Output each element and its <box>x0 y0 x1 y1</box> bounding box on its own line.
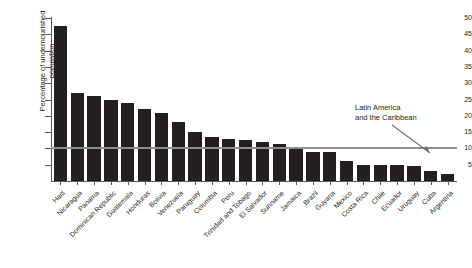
x-tick-7 <box>178 182 179 185</box>
x-tick-18 <box>363 182 364 185</box>
x-label-suriname: Suriname <box>139 189 286 268</box>
y-tick-45 <box>45 34 51 35</box>
annotation-arrow-icon <box>350 95 472 160</box>
bar-fill <box>441 174 454 181</box>
x-label-costa-rica: Costa Rica <box>223 189 370 268</box>
y-tick-40 <box>45 51 51 52</box>
bar-fill <box>306 152 319 181</box>
x-label-dominican-republic: Dominican Republic <box>0 189 118 268</box>
bar-colombia <box>205 18 218 181</box>
bar-fill <box>357 165 370 181</box>
bar-venezuela <box>172 18 185 181</box>
bar-fill <box>138 109 151 181</box>
x-tick-19 <box>380 182 381 185</box>
chart-figure: Percentage of undernourished population … <box>0 0 472 268</box>
x-label-honduras: Honduras <box>4 189 151 268</box>
y-tick-15 <box>45 132 51 133</box>
x-label-panama: Panama <box>0 189 101 268</box>
bar-trinidad-and-tobago <box>239 18 252 181</box>
x-tick-22 <box>431 182 432 185</box>
bar-el-salvador <box>256 18 269 181</box>
bar-fill <box>205 137 218 181</box>
x-tick-21 <box>414 182 415 185</box>
bar-guatemala <box>121 18 134 181</box>
x-tick-8 <box>195 182 196 185</box>
x-tick-12 <box>262 182 263 185</box>
bar-bolivia <box>155 18 168 181</box>
x-label-trinidad-and-tobago: Trinidad and Tobago <box>105 189 252 268</box>
bar-fill <box>71 93 84 181</box>
x-axis-line <box>51 181 457 182</box>
x-label-guyana: Guyana <box>190 189 337 268</box>
y-tick-50 <box>45 18 51 19</box>
bar-jamaica <box>289 18 302 181</box>
x-label-uruguay: Uruguay <box>274 189 421 268</box>
x-label-argentina: Argentina <box>307 189 454 268</box>
x-label-venezuela: Venezuela <box>38 189 185 268</box>
bar-honduras <box>138 18 151 181</box>
x-tick-20 <box>397 182 398 185</box>
x-label-nicaragua: Nicaragua <box>0 189 84 268</box>
x-tick-0 <box>60 182 61 185</box>
x-label-haiti: Haiti <box>0 189 67 268</box>
x-label-colombia: Colombia <box>72 189 219 268</box>
x-tick-3 <box>111 182 112 185</box>
bar-fill <box>289 148 302 181</box>
bar-brazil <box>306 18 319 181</box>
y-tick-5 <box>45 165 51 166</box>
bar-guyana <box>323 18 336 181</box>
bar-fill <box>54 26 67 181</box>
y-tick-20 <box>45 116 51 117</box>
bar-dominican-republic <box>104 18 117 181</box>
x-tick-17 <box>347 182 348 185</box>
bar-peru <box>222 18 235 181</box>
y-tick-30 <box>45 83 51 84</box>
x-tick-6 <box>161 182 162 185</box>
x-tick-14 <box>296 182 297 185</box>
x-tick-1 <box>77 182 78 185</box>
x-tick-11 <box>246 182 247 185</box>
bar-fill <box>390 165 403 181</box>
x-label-mexico: Mexico <box>206 189 353 268</box>
x-label-paraguay: Paraguay <box>55 189 202 268</box>
bar-fill <box>340 161 353 181</box>
bar-fill <box>222 139 235 181</box>
bar-paraguay <box>188 18 201 181</box>
bar-panama <box>87 18 100 181</box>
bar-fill <box>188 132 201 181</box>
x-tick-4 <box>128 182 129 185</box>
bar-fill <box>374 165 387 181</box>
x-tick-9 <box>212 182 213 185</box>
bar-fill <box>407 166 420 181</box>
y-tick-35 <box>45 67 51 68</box>
bar-fill <box>323 152 336 181</box>
bar-haiti <box>54 18 67 181</box>
x-tick-5 <box>145 182 146 185</box>
x-tick-13 <box>279 182 280 185</box>
x-tick-16 <box>330 182 331 185</box>
bar-fill <box>172 122 185 181</box>
bar-fill <box>424 171 437 181</box>
x-label-ecuador: Ecuador <box>257 189 404 268</box>
x-tick-2 <box>94 182 95 185</box>
x-tick-23 <box>448 182 449 185</box>
x-label-jamaica: Jamaica <box>156 189 303 268</box>
x-tick-15 <box>313 182 314 185</box>
x-label-el-salvador: El Salvador <box>122 189 269 268</box>
bar-fill <box>239 140 252 181</box>
x-label-brazil: Brazil <box>173 189 320 268</box>
x-tick-10 <box>229 182 230 185</box>
x-label-chile: Chile <box>240 189 387 268</box>
x-label-bolivia: Bolivia <box>21 189 168 268</box>
x-label-peru: Peru <box>89 189 236 268</box>
bar-suriname <box>273 18 286 181</box>
x-label-cuba: Cuba <box>291 189 438 268</box>
bar-fill <box>87 96 100 181</box>
y-tick-25 <box>45 100 51 101</box>
bar-fill <box>121 103 134 181</box>
bar-nicaragua <box>71 18 84 181</box>
x-label-guatemala: Guatemala <box>0 189 135 268</box>
bar-fill <box>104 100 117 182</box>
